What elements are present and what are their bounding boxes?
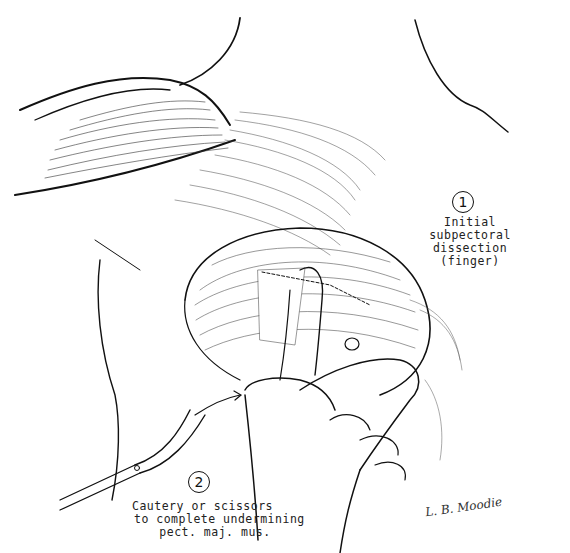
annotation-1-label: Initial subpectoral dissection (finger) xyxy=(415,216,525,268)
illustration-canvas: 1 Initial subpectoral dissection (finger… xyxy=(0,0,570,553)
annotation-2-line-3: pect. maj. mus. xyxy=(120,526,310,539)
annotation-1-number: 1 xyxy=(452,191,474,213)
annotation-2-label: Cautery or scissors to complete undermin… xyxy=(120,500,310,539)
annotation-1-line-4: (finger) xyxy=(415,255,525,268)
anatomy-line-art xyxy=(0,0,570,553)
annotation-2-number: 2 xyxy=(188,471,210,493)
